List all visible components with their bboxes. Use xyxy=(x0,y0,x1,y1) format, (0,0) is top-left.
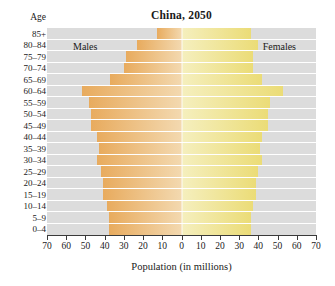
y-axis-tick-label: 50–54 xyxy=(6,110,46,119)
y-axis-tick-label: 55–59 xyxy=(6,98,46,107)
bar-female-30-34 xyxy=(182,155,263,166)
x-axis-tick xyxy=(143,235,144,240)
bar-male-80-84 xyxy=(137,40,181,51)
center-axis-line xyxy=(181,28,182,235)
y-axis-tick-label: 10–14 xyxy=(6,202,46,211)
bar-male-50-54 xyxy=(91,109,181,120)
bar-female-85+ xyxy=(182,28,251,39)
y-axis-tick-label: 20–24 xyxy=(6,179,46,188)
y-axis-tick-label: 70–74 xyxy=(6,64,46,73)
bar-female-15-19 xyxy=(182,189,257,200)
x-axis-tick xyxy=(297,235,298,240)
series-label-males: Males xyxy=(73,41,97,52)
y-axis-tick-label: 40–44 xyxy=(6,133,46,142)
x-axis-tick xyxy=(47,235,48,240)
bar-male-20-24 xyxy=(103,178,182,189)
chart-title: China, 2050 xyxy=(47,9,316,21)
bar-male-5-9 xyxy=(109,212,182,223)
x-axis-tick xyxy=(278,235,279,240)
y-axis-tick-label: 30–34 xyxy=(6,156,46,165)
y-axis-tick-label: 15–19 xyxy=(6,190,46,199)
x-axis-tick xyxy=(162,235,163,240)
x-axis-tick xyxy=(220,235,221,240)
bar-female-5-9 xyxy=(182,212,251,223)
y-axis-title: Age xyxy=(14,12,46,22)
bar-female-45-49 xyxy=(182,120,268,131)
population-pyramid-figure: China, 2050 Age Males Females 85+80–8475… xyxy=(0,0,335,286)
y-axis-tick-label: 65–69 xyxy=(6,75,46,84)
bar-male-0-4 xyxy=(109,224,182,236)
bar-female-55-59 xyxy=(182,97,270,108)
bar-female-65-69 xyxy=(182,74,263,85)
bar-male-70-74 xyxy=(124,63,182,74)
y-axis-tick-label: 75–79 xyxy=(6,52,46,61)
bar-male-35-39 xyxy=(99,143,182,154)
bar-male-75-79 xyxy=(126,51,182,62)
series-label-females: Females xyxy=(263,41,296,52)
bar-male-25-29 xyxy=(101,166,182,177)
bar-male-65-69 xyxy=(110,74,181,85)
bar-female-40-44 xyxy=(182,132,263,143)
bar-female-80-84 xyxy=(182,40,259,51)
y-axis-tick-label: 45–49 xyxy=(6,121,46,130)
bar-male-85+ xyxy=(157,28,182,39)
x-axis-tick xyxy=(201,235,202,240)
y-axis-tick-label: 80–84 xyxy=(6,41,46,50)
bar-female-10-14 xyxy=(182,201,253,212)
x-axis-tick xyxy=(66,235,67,240)
bar-male-30-34 xyxy=(97,155,182,166)
y-axis-tick-label: 85+ xyxy=(6,29,46,38)
plot-area: Males Females xyxy=(47,28,316,235)
y-axis-tick-label: 25–29 xyxy=(6,167,46,176)
bar-male-40-44 xyxy=(97,132,182,143)
bar-male-60-64 xyxy=(82,86,182,97)
x-axis-tick-label: 70 xyxy=(304,241,328,251)
bar-male-15-19 xyxy=(103,189,182,200)
y-axis-tick-label: 35–39 xyxy=(6,144,46,153)
bar-male-45-49 xyxy=(91,120,181,131)
x-axis-tick xyxy=(258,235,259,240)
bar-female-35-39 xyxy=(182,143,261,154)
y-axis-tick-label: 0–4 xyxy=(6,225,46,234)
x-axis-tick xyxy=(182,235,183,240)
y-axis-tick-label: 5–9 xyxy=(6,213,46,222)
x-axis-tick xyxy=(105,235,106,240)
x-axis-tick xyxy=(124,235,125,240)
y-axis-tick-label: 60–64 xyxy=(6,87,46,96)
x-axis-title: Population (in millions) xyxy=(47,261,316,272)
bar-male-55-59 xyxy=(89,97,181,108)
bar-female-0-4 xyxy=(182,224,251,236)
x-axis-tick xyxy=(239,235,240,240)
x-axis-tick xyxy=(316,235,317,240)
y-axis-tick-labels: 85+80–8475–7970–7465–6960–6455–5950–5445… xyxy=(6,28,46,235)
bar-female-20-24 xyxy=(182,178,257,189)
bar-female-50-54 xyxy=(182,109,268,120)
bar-female-25-29 xyxy=(182,166,259,177)
x-axis-tick xyxy=(85,235,86,240)
bar-male-10-14 xyxy=(107,201,182,212)
bar-female-75-79 xyxy=(182,51,253,62)
bar-female-60-64 xyxy=(182,86,284,97)
bar-female-70-74 xyxy=(182,63,253,74)
